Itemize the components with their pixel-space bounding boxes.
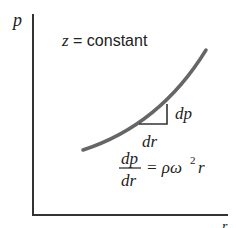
equation-rhs: = ρω xyxy=(146,158,182,177)
y-axis-label: p xyxy=(11,10,22,30)
condition-label: z = constant xyxy=(61,31,148,50)
equation-exponent: 2 xyxy=(190,154,196,166)
dr-label: dr xyxy=(142,132,158,151)
equation: dp dr = ρω 2 r xyxy=(119,149,205,190)
equation-rhs-tail: r xyxy=(198,158,205,177)
equation-numerator: dp xyxy=(121,149,138,168)
condition-rest: = constant xyxy=(69,32,148,49)
x-axis-label: r xyxy=(222,219,228,228)
equation-denominator: dr xyxy=(121,171,137,190)
dp-label: dp xyxy=(175,104,192,123)
pressure-radius-diagram: p r z = constant dp dr dp dr = ρω 2 r xyxy=(0,0,236,228)
